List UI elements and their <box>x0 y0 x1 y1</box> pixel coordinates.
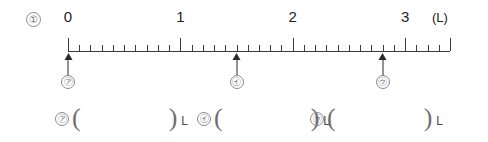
scale-label-3: 3 <box>401 9 409 24</box>
answer-tag-2: ㋑ <box>197 112 211 126</box>
ruler-tick-minor <box>102 45 103 51</box>
ruler-tick-major <box>180 38 181 51</box>
arrow-head-icon <box>379 53 387 60</box>
ruler-tick-minor <box>371 45 372 51</box>
ruler-tick-minor <box>338 45 339 51</box>
arrow-tag-3: ㋒ <box>376 75 390 89</box>
ruler-tick-minor <box>203 45 204 51</box>
ruler-tick-minor <box>90 45 91 51</box>
scale-label-2: 2 <box>289 9 297 24</box>
scale-label-0: 0 <box>64 9 72 24</box>
arrow-head-icon <box>233 53 241 60</box>
answer-paren-open-1: ( <box>72 105 81 131</box>
ruler-tick-major <box>293 38 294 51</box>
answer-tag-3: ㋒ <box>310 112 324 126</box>
answer-input-3[interactable] <box>336 119 424 120</box>
ruler-tick-minor <box>124 45 125 51</box>
ruler-axis-line <box>68 51 450 52</box>
arrow-tag-2: ㋑ <box>230 75 244 89</box>
ruler-tick-minor <box>428 45 429 51</box>
worksheet-page: ① 0123 (L) ㋐㋑㋒ ㋐()L㋑()L㋒()L <box>0 0 488 142</box>
ruler-tick-minor <box>281 45 282 51</box>
ruler-tick-minor <box>304 45 305 51</box>
answer-unit-1: L <box>181 115 188 127</box>
arrow-head-icon <box>64 53 72 60</box>
ruler-unit-label: (L) <box>432 10 448 25</box>
answer-tag-1: ㋐ <box>55 112 69 126</box>
arrow-stem <box>382 60 383 76</box>
ruler-tick-minor <box>248 45 249 51</box>
ruler-tick-minor <box>416 45 417 51</box>
ruler-tick-minor <box>147 45 148 51</box>
ruler-tick-minor <box>135 45 136 51</box>
ruler-tick-minor <box>214 45 215 51</box>
ruler-tick-minor <box>360 45 361 51</box>
answer-paren-open-3: ( <box>327 105 336 131</box>
ruler-tick-minor <box>192 45 193 51</box>
ruler-tick-major <box>68 38 69 51</box>
arrow-marker-1 <box>64 53 73 76</box>
ruler-tick-minor <box>113 45 114 51</box>
ruler-tick-minor <box>326 45 327 51</box>
ruler-tick-minor <box>383 45 384 51</box>
answer-paren-close-3: ) <box>424 105 433 131</box>
answer-unit-3: L <box>436 115 443 127</box>
ruler-tick-minor <box>259 45 260 51</box>
ruler-tick-minor <box>225 45 226 51</box>
arrow-tag-1: ㋐ <box>61 75 75 89</box>
answer-input-1[interactable] <box>81 119 169 120</box>
arrow-marker-3 <box>378 53 387 76</box>
ruler-tick-minor <box>394 45 395 51</box>
answer-group-1[interactable]: ㋐()L <box>55 104 188 134</box>
answer-group-3[interactable]: ㋒()L <box>310 104 443 134</box>
answer-input-2[interactable] <box>223 119 311 120</box>
ruler-end-tick <box>450 38 451 51</box>
ruler-tick-minor <box>169 45 170 51</box>
ruler-tick-major <box>405 38 406 51</box>
answer-paren-close-1: ) <box>169 105 178 131</box>
answer-blanks-row: ㋐()L㋑()L㋒()L <box>0 104 488 138</box>
ruler-tick-minor <box>237 45 238 51</box>
scale-label-1: 1 <box>176 9 184 24</box>
arrow-marker-2 <box>232 53 241 76</box>
number-line-ruler: 0123 (L) ㋐㋑㋒ <box>0 0 488 80</box>
ruler-tick-minor <box>439 45 440 51</box>
ruler-tick-minor <box>270 45 271 51</box>
ruler-tick-minor <box>158 45 159 51</box>
arrow-stem <box>236 60 237 76</box>
ruler-tick-minor <box>79 45 80 51</box>
ruler-tick-minor <box>315 45 316 51</box>
answer-paren-open-2: ( <box>214 105 223 131</box>
arrow-stem <box>68 60 69 76</box>
ruler-tick-minor <box>349 45 350 51</box>
